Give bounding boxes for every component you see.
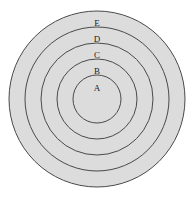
ring-label-a: A	[94, 84, 101, 93]
ring-label-d: D	[94, 35, 101, 44]
ring-label-c: C	[94, 51, 100, 60]
concentric-circles-canvas	[0, 0, 193, 197]
concentric-circles-diagram: E D C B A	[0, 0, 193, 197]
ring-label-b: B	[94, 67, 100, 76]
ring-label-e: E	[94, 19, 100, 28]
